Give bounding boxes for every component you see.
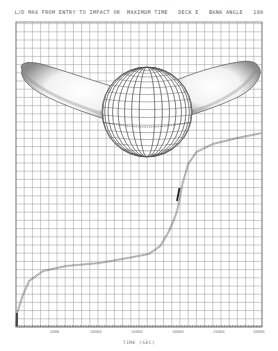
- x-tick-label: 20000: [172, 329, 183, 334]
- trajectory-series: [15, 133, 261, 327]
- x-tick-label: 30000: [253, 329, 264, 334]
- x-tick-label: 10000: [90, 329, 101, 334]
- x-tick-label: 15000: [131, 329, 142, 334]
- wireframe-globe-icon: [102, 67, 192, 159]
- x-tick-label: 5000: [50, 329, 59, 334]
- x-tick-label: 25000: [213, 329, 224, 334]
- x-axis-label: TIME (SEC): [0, 340, 278, 345]
- chart-plot-area: [0, 0, 278, 351]
